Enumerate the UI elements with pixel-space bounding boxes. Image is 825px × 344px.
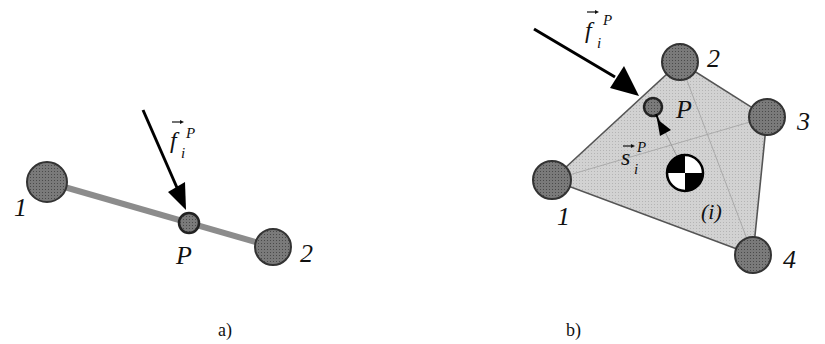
point-p [644, 98, 662, 116]
point-p [179, 213, 199, 233]
node-4-label: 4 [783, 245, 796, 274]
node-2-label: 2 [300, 239, 313, 268]
svg-text:s: s [621, 144, 630, 170]
panel-a: 1 2 P f i P [14, 110, 313, 270]
svg-text:P: P [602, 12, 612, 28]
point-p-label: P [675, 95, 692, 124]
svg-text:f: f [170, 127, 180, 153]
element-label: (i) [701, 199, 722, 224]
force-label: f i P [170, 120, 195, 161]
caption-b: b) [566, 320, 581, 341]
panel-b: 1 2 3 4 P (i) f i P s i P [533, 10, 810, 274]
svg-text:i: i [181, 145, 185, 161]
shell-element [552, 62, 767, 255]
center-of-gravity-icon [667, 155, 703, 191]
node-1-label: 1 [557, 202, 570, 231]
svg-text:P: P [636, 139, 646, 155]
svg-text:i: i [634, 161, 638, 177]
node-4 [735, 237, 771, 273]
node-2 [255, 229, 291, 265]
node-3 [749, 99, 785, 135]
node-1-label: 1 [14, 193, 27, 222]
truss-bar [47, 182, 273, 247]
node-1 [533, 161, 571, 199]
node-3-label: 3 [796, 107, 810, 136]
point-p-label: P [175, 241, 192, 270]
node-1 [27, 162, 67, 202]
node-2 [662, 44, 698, 80]
force-arrow-icon [143, 110, 186, 210]
force-label: f i P [585, 10, 612, 51]
diagram-canvas: 1 2 P f i P [0, 0, 825, 344]
node-2-label: 2 [707, 44, 720, 73]
svg-text:f: f [585, 17, 595, 43]
caption-a: a) [218, 320, 232, 341]
svg-text:i: i [597, 35, 601, 51]
svg-text:P: P [185, 125, 195, 141]
